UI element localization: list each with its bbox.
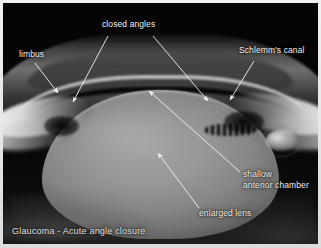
histology-photograph: limbus closed angles Schlemm's canal sha… (3, 3, 318, 244)
annotation-label-shallow-line1: shallow (243, 169, 272, 179)
annotation-label-shallow-line2: anterior chamber (243, 180, 309, 190)
schlemms-canal-wall (261, 126, 301, 157)
left-closed-angle-anatomy (44, 116, 79, 135)
figure-caption: Glaucoma - Acute angle closure (12, 226, 146, 236)
angle-pigment-deposits (205, 124, 255, 136)
annotation-label-schlemms-canal: Schlemm's canal (239, 45, 304, 55)
annotation-label-limbus: limbus (19, 49, 44, 59)
annotation-label-closed-angles: closed angles (102, 19, 155, 29)
annotation-label-enlarged-lens: enlarged lens (199, 208, 251, 218)
lens-highlight (79, 109, 205, 172)
glaucoma-figure: limbus closed angles Schlemm's canal sha… (0, 0, 321, 248)
